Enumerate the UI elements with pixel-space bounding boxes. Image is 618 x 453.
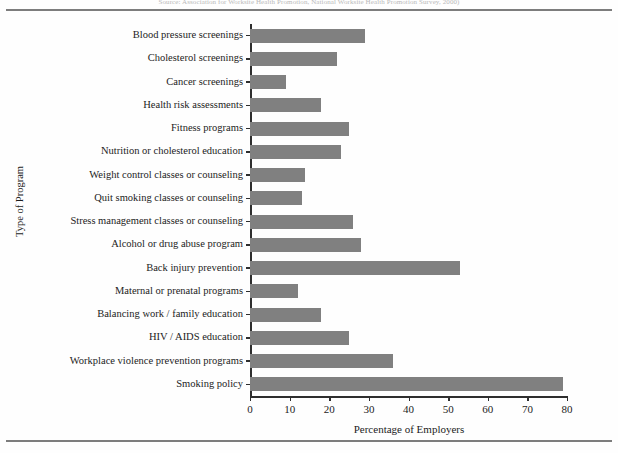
category-label: Cancer screenings <box>166 74 243 89</box>
bar <box>250 238 361 252</box>
bar-row: Alcohol or drug abuse program <box>250 233 567 256</box>
category-label: Health risk assessments <box>143 97 243 112</box>
bar-row: Blood pressure screenings <box>250 24 567 47</box>
category-label: Weight control classes or counseling <box>89 167 243 182</box>
bar <box>250 145 341 159</box>
x-axis-tick <box>290 396 291 401</box>
figure-source-note: Source: Association for Worksite Health … <box>0 0 618 7</box>
bar-row: Nutrition or cholesterol education <box>250 140 567 163</box>
x-axis-tick-label: 0 <box>230 403 270 415</box>
bar-row: Back injury prevention <box>250 257 567 280</box>
bar <box>250 75 286 89</box>
bar-row: Cancer screenings <box>250 71 567 94</box>
bar <box>250 52 337 66</box>
category-label: Smoking policy <box>176 376 243 391</box>
bar <box>250 284 298 298</box>
category-label: Alcohol or drug abuse program <box>111 236 243 251</box>
x-axis-tick <box>488 396 489 401</box>
category-label: Back injury prevention <box>146 260 243 275</box>
bar <box>250 377 563 391</box>
bar <box>250 331 349 345</box>
bar-chart-plot-area: Blood pressure screeningsCholesterol scr… <box>250 24 567 396</box>
category-label: Nutrition or cholesterol education <box>101 143 243 158</box>
bar-row: Weight control classes or counseling <box>250 164 567 187</box>
bar-row: Health risk assessments <box>250 94 567 117</box>
bar-row: Smoking policy <box>250 373 567 396</box>
figure-top-rule <box>6 9 612 11</box>
x-axis-tick <box>567 396 568 401</box>
x-axis-tick-label: 10 <box>270 403 310 415</box>
x-axis-tick-label: 30 <box>349 403 389 415</box>
bar-row: Fitness programs <box>250 117 567 140</box>
bar <box>250 168 305 182</box>
bar-row: Maternal or prenatal programs <box>250 280 567 303</box>
x-axis-tick <box>527 396 528 401</box>
bar-row: Stress management classes or counseling <box>250 210 567 233</box>
x-axis-title: Percentage of Employers <box>250 423 568 435</box>
x-axis-tick <box>250 396 251 401</box>
bar <box>250 308 321 322</box>
x-axis-tick-label: 80 <box>547 403 587 415</box>
x-axis-tick-label: 20 <box>309 403 349 415</box>
x-axis-tick <box>369 396 370 401</box>
x-axis-tick-label: 40 <box>389 403 429 415</box>
x-axis-tick-label: 60 <box>468 403 508 415</box>
bar-row: Balancing work / family education <box>250 303 567 326</box>
category-label: Cholesterol screenings <box>148 50 243 65</box>
category-label: HIV / AIDS education <box>149 329 243 344</box>
bar <box>250 29 365 43</box>
category-label: Balancing work / family education <box>97 306 243 321</box>
category-label: Maternal or prenatal programs <box>115 283 243 298</box>
bar-row: HIV / AIDS education <box>250 326 567 349</box>
bar-row: Cholesterol screenings <box>250 47 567 70</box>
figure-bottom-rule <box>6 440 612 442</box>
bar <box>250 191 302 205</box>
bar <box>250 261 460 275</box>
x-axis-tick <box>329 396 330 401</box>
figure-page: Source: Association for Worksite Health … <box>0 0 618 453</box>
bar <box>250 122 349 136</box>
bar <box>250 98 321 112</box>
x-axis-tick <box>448 396 449 401</box>
category-label: Stress management classes or counseling <box>70 213 243 228</box>
category-label: Workplace violence prevention programs <box>70 353 243 368</box>
category-label: Blood pressure screenings <box>133 27 243 42</box>
bar <box>250 354 393 368</box>
bar-row: Workplace violence prevention programs <box>250 350 567 373</box>
bar-row: Quit smoking classes or counseling <box>250 187 567 210</box>
x-axis-tick <box>409 396 410 401</box>
y-axis-title: Type of Program <box>14 152 25 252</box>
category-label: Quit smoking classes or counseling <box>94 190 243 205</box>
x-axis-tick-label: 50 <box>428 403 468 415</box>
bar <box>250 215 353 229</box>
x-axis-tick-label: 70 <box>507 403 547 415</box>
category-label: Fitness programs <box>171 120 243 135</box>
